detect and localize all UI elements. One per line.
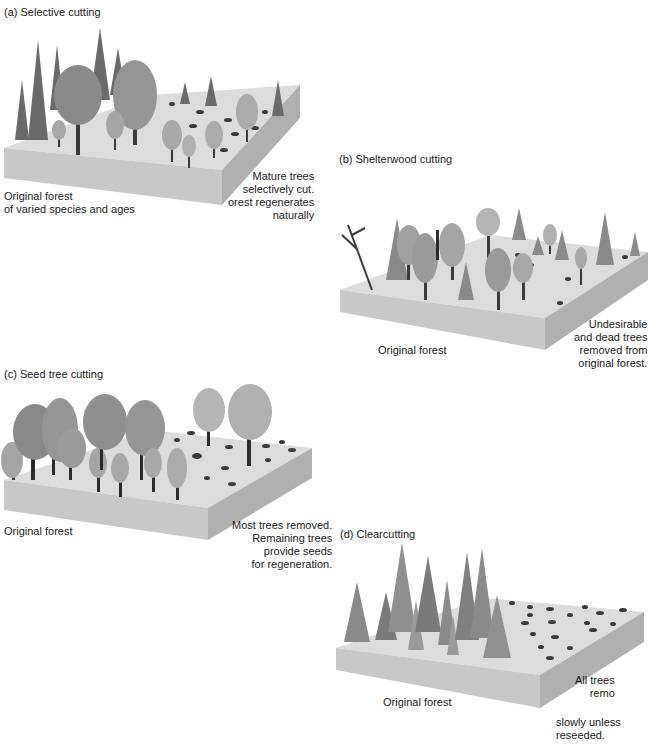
left-label: Original forest bbox=[378, 344, 446, 357]
dead-tree bbox=[342, 225, 372, 290]
right-label-top: All trees remo bbox=[575, 674, 615, 700]
left-label: Original forest bbox=[4, 525, 72, 538]
left-label: Original forest of varied species and ag… bbox=[4, 190, 135, 216]
right-label: Mature trees selectively cut. orest rege… bbox=[228, 170, 314, 222]
panel-clearcutting: (d) Clearcutting Origina bbox=[330, 520, 650, 746]
panel-shelterwood-cutting: (b) Shelterwood cutting bbox=[330, 140, 650, 370]
right-label: Most trees removed. Remaining trees prov… bbox=[232, 519, 332, 571]
clearcutting-illustration bbox=[330, 520, 650, 746]
panel-seed-tree-cutting: (c) Seed tree cutting Original bbox=[0, 360, 330, 560]
panel-selective-cutting: (a) Selective cutting Original fore bbox=[0, 0, 310, 230]
left-label: Original forest bbox=[383, 696, 451, 709]
right-label: Undesirable and dead trees removed from … bbox=[574, 318, 647, 370]
right-label-bottom: slowly unless reseeded. bbox=[556, 716, 621, 742]
